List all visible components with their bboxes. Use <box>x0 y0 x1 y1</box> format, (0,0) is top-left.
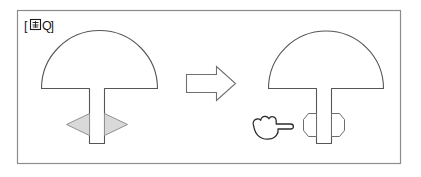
label-close-bracket: ] <box>51 19 55 33</box>
figure-canvas: [ Q ] <box>0 0 421 177</box>
octagon-handle-right[interactable] <box>332 114 345 137</box>
figure-panel: [ Q ] <box>0 0 421 177</box>
label-open-bracket: [ <box>24 19 28 33</box>
octagon-handle-left[interactable] <box>304 114 317 137</box>
